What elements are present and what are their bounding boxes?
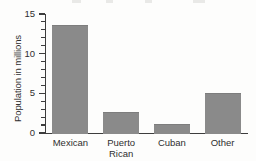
y-axis-minor-tick (41, 61, 45, 62)
y-axis-minor-tick (41, 77, 45, 78)
x-axis-category-label: Cuban (147, 137, 198, 148)
y-axis-major-tick (39, 13, 45, 14)
y-axis-minor-tick (41, 117, 45, 118)
y-axis-minor-tick (41, 109, 45, 110)
y-axis-minor-tick (41, 21, 45, 22)
y-axis-major-tick (39, 132, 45, 133)
scan-artifact (72, 0, 81, 3)
chart-figure: Population in millions 051015 MexicanPue… (0, 0, 256, 161)
bar (103, 112, 139, 134)
y-axis-minor-tick (41, 124, 45, 125)
y-axis-tick-label: 5 (13, 87, 35, 98)
x-axis-category-label: PuertoRican (96, 137, 147, 159)
y-axis-tick-label: 10 (13, 48, 35, 59)
x-axis-category-label: Other (197, 137, 248, 148)
y-axis-minor-tick (41, 29, 45, 30)
scan-artifact (106, 0, 113, 3)
y-axis-minor-tick (41, 37, 45, 38)
y-axis-minor-tick (41, 45, 45, 46)
y-axis-major-tick (39, 53, 45, 54)
bar (154, 124, 190, 134)
y-axis-major-tick (39, 93, 45, 94)
bar (205, 93, 241, 134)
scan-artifact (145, 0, 152, 3)
y-axis-tick-label: 15 (13, 8, 35, 19)
x-axis-category-label: Mexican (45, 137, 96, 148)
y-axis-title: Population in millions (12, 24, 23, 134)
bar (52, 25, 88, 134)
y-axis-minor-tick (41, 101, 45, 102)
y-axis-line (45, 14, 46, 134)
y-axis-minor-tick (41, 69, 45, 70)
y-axis-tick-label: 0 (13, 127, 35, 138)
scan-artifact (193, 0, 205, 3)
y-axis-minor-tick (41, 85, 45, 86)
